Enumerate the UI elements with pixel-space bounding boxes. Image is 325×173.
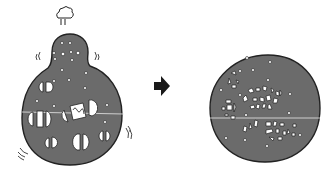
cell-body-round	[210, 55, 320, 162]
transition-arrow-icon	[154, 76, 170, 96]
illustration	[0, 0, 325, 173]
steam-puff-icon	[57, 7, 74, 26]
fragmented-cell	[210, 55, 320, 162]
swollen-cell	[18, 7, 132, 166]
diagram-canvas	[0, 0, 325, 173]
